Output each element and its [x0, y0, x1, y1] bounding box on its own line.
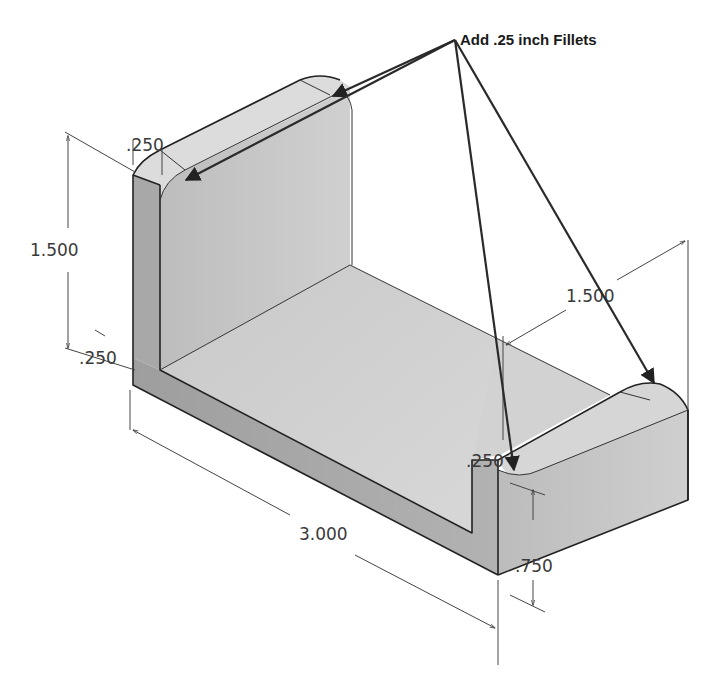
left-upright-end-face [133, 175, 160, 370]
extension-line [510, 595, 545, 612]
dim-length: 3.000 [299, 524, 348, 544]
dim-base-thickness: .250 [79, 348, 117, 368]
part-drawing: 1.500 .250 .250 1.500 3.000 .250 .750 Ad… [0, 0, 722, 675]
dim-upright-thickness: .250 [126, 135, 164, 155]
fillet-note: Add .25 inch Fillets [460, 31, 597, 48]
dim-upright-height: 1.500 [30, 240, 79, 260]
dim-right-height: .750 [515, 556, 553, 576]
dim-right-thickness: .250 [466, 451, 504, 471]
dimension-line [506, 310, 566, 345]
part-body [133, 76, 688, 575]
extension-line [95, 330, 105, 336]
leader-arrow-4 [455, 40, 654, 383]
dimension-line [617, 241, 685, 280]
dimension-line [355, 555, 495, 628]
extension-line [65, 132, 135, 172]
